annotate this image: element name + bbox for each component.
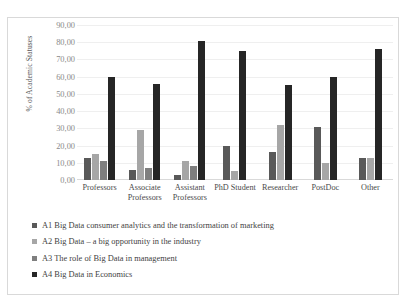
bar <box>231 171 238 180</box>
x-axis-category-label: PhD Student <box>212 183 257 202</box>
legend-label: A3 The role of Big Data in management <box>42 254 177 263</box>
bar <box>314 127 321 180</box>
bar <box>239 51 246 180</box>
legend-label: A2 Big Data – a big opportunity in the i… <box>42 237 201 246</box>
y-axis-tick-label: 40,00 <box>31 107 75 116</box>
bar <box>108 77 115 180</box>
x-axis-category-labels: ProfessorsAssociate ProfessorsAssistant … <box>77 183 393 202</box>
bar <box>330 77 337 180</box>
bar <box>269 152 276 180</box>
legend-swatch-icon <box>32 272 37 277</box>
bar-group <box>167 25 212 180</box>
legend-swatch-icon <box>32 256 37 261</box>
bar-group <box>212 25 257 180</box>
bar <box>137 130 144 180</box>
y-axis-tick-label: 20,00 <box>31 141 75 150</box>
x-axis-category-label: Other <box>348 183 393 202</box>
x-axis-category-label: Researcher <box>258 183 303 202</box>
legend-item[interactable]: A1 Big Data consumer analytics and the t… <box>32 217 392 234</box>
bar <box>190 166 197 180</box>
x-axis-category-label: Professors <box>77 183 122 202</box>
plot-area <box>77 25 393 180</box>
y-axis-tick-label: 90,00 <box>31 21 75 30</box>
y-axis-tick-label: 70,00 <box>31 55 75 64</box>
bar <box>129 170 136 180</box>
legend-item[interactable]: A2 Big Data – a big opportunity in the i… <box>32 234 392 251</box>
chart-legend: A1 Big Data consumer analytics and the t… <box>32 217 392 283</box>
bar-group <box>303 25 348 180</box>
bar <box>174 175 181 180</box>
legend-item[interactable]: A4 Big Data in Economics <box>32 267 392 284</box>
chart-figure: % of Academic Statuses 90,0080,0070,0060… <box>0 0 406 305</box>
x-axis-category-label: Associate Professors <box>122 183 167 202</box>
bar-group <box>122 25 167 180</box>
legend-label: A4 Big Data in Economics <box>42 270 132 279</box>
legend-swatch-icon <box>32 223 37 228</box>
bar-group <box>348 25 393 180</box>
y-axis-tick-labels: 90,0080,0070,0060,0050,0040,0030,0020,00… <box>31 17 75 180</box>
bar <box>359 158 366 180</box>
legend-swatch-icon <box>32 239 37 244</box>
x-axis-category-label: PostDoc <box>303 183 348 202</box>
bar <box>277 125 284 180</box>
bar-group <box>77 25 122 180</box>
legend-item[interactable]: A3 The role of Big Data in management <box>32 250 392 267</box>
bar <box>198 41 205 181</box>
bar <box>84 158 91 180</box>
bar <box>322 163 329 180</box>
y-axis-tick-label: 0,00 <box>31 176 75 185</box>
y-axis-tick-label: 30,00 <box>31 124 75 133</box>
bar <box>100 161 107 180</box>
bar <box>285 85 292 180</box>
bar-group <box>258 25 303 180</box>
bar <box>145 168 152 180</box>
x-axis-category-label: Assistant Professors <box>167 183 212 202</box>
bar <box>182 161 189 180</box>
plot-wrapper: % of Academic Statuses 90,0080,0070,0060… <box>7 17 399 295</box>
bar <box>153 84 160 180</box>
y-axis-tick-label: 50,00 <box>31 89 75 98</box>
y-axis-tick-label: 10,00 <box>31 158 75 167</box>
y-axis-tick-label: 60,00 <box>31 72 75 81</box>
bar <box>367 158 374 180</box>
bar <box>375 49 382 180</box>
legend-label: A1 Big Data consumer analytics and the t… <box>42 221 274 230</box>
y-axis-tick-label: 80,00 <box>31 38 75 47</box>
bar-groups <box>77 25 393 180</box>
bar <box>92 154 99 180</box>
bar <box>223 146 230 180</box>
